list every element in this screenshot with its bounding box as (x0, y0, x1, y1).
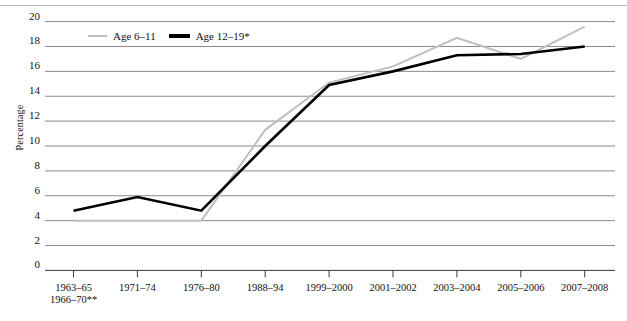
chart-plot-area (0, 0, 627, 321)
y-axis-tick-label: 20 (18, 11, 40, 22)
legend-item-age-12-19: Age 12–19* (169, 30, 250, 42)
y-axis-tick-label: 4 (18, 210, 40, 221)
y-axis-tick-label: 8 (18, 160, 40, 171)
legend-label: Age 6–11 (113, 30, 156, 42)
gridlines-group (45, 22, 615, 271)
y-axis-tick-label: 18 (18, 35, 40, 46)
series-line-age-6-11 (74, 27, 585, 221)
legend-swatch-line-icon (88, 35, 107, 37)
chart-figure: Percentage 20181614121086420 1963–651966… (0, 0, 627, 321)
y-axis-tick-label: 14 (18, 85, 40, 96)
chart-legend: Age 6–11 Age 12–19* (88, 30, 250, 42)
x-axis-tick-label: 2007–2008 (535, 282, 627, 294)
legend-swatch-line-icon (169, 34, 190, 38)
legend-label: Age 12–19* (196, 30, 250, 42)
y-axis-tick-label: 0 (18, 259, 40, 270)
y-axis-tick-label: 10 (18, 135, 40, 146)
x-axis-tick-marks (74, 270, 585, 277)
y-axis-tick-label: 2 (18, 235, 40, 246)
y-axis-tick-label: 6 (18, 185, 40, 196)
y-axis-tick-label: 12 (18, 110, 40, 121)
data-series-group (74, 27, 585, 221)
legend-item-age-6-11: Age 6–11 (88, 30, 156, 42)
y-axis-tick-label: 16 (18, 60, 40, 71)
